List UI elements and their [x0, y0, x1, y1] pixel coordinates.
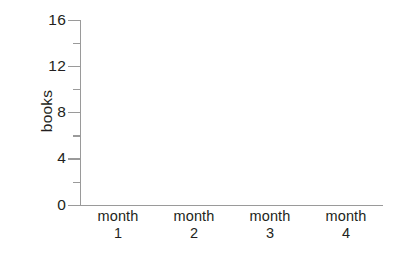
x-category-number: 2 — [156, 225, 232, 242]
x-category-number: 1 — [80, 225, 156, 242]
x-category-name: month — [80, 208, 156, 225]
y-tick-label-12: 12 — [48, 58, 66, 74]
x-category-name: month — [156, 208, 232, 225]
plot-area — [81, 20, 383, 205]
y-tick-label-16: 16 — [48, 12, 66, 28]
y-axis-title: books — [36, 18, 58, 204]
x-category-name: month — [308, 208, 384, 225]
y-tick-label-0: 0 — [57, 197, 66, 213]
x-category-month-4: month 4 — [308, 208, 384, 242]
y-tick-label-4: 4 — [57, 150, 66, 166]
x-axis-labels: month 1 month 2 month 3 month 4 — [80, 208, 384, 242]
x-category-number: 4 — [308, 225, 384, 242]
x-category-name: month — [232, 208, 308, 225]
y-tick-label-8: 8 — [57, 104, 66, 120]
books-per-month-bar-chart: books 16 12 8 4 0 month 1 month 2 month … — [0, 0, 398, 264]
x-category-number: 3 — [232, 225, 308, 242]
x-category-month-3: month 3 — [232, 208, 308, 242]
x-category-month-1: month 1 — [80, 208, 156, 242]
x-category-month-2: month 2 — [156, 208, 232, 242]
